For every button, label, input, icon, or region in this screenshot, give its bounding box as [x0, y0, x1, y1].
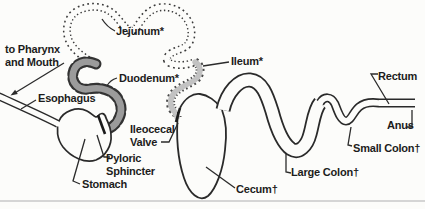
label-rectum: Rectum: [378, 70, 417, 83]
ileum-tube: [171, 62, 200, 117]
digestive-tract-diagram: to Pharynx and Mouth Esophagus Jejunum* …: [0, 0, 425, 209]
leader-small-colon: [348, 127, 352, 146]
label-pharynx-line2: and Mouth: [5, 56, 60, 69]
label-ileocecal-line1: Ileocecal: [130, 123, 175, 136]
label-ileocecal-line2: Valve: [130, 136, 175, 149]
label-ileocecal-valve: Ileocecal Valve: [130, 123, 175, 148]
leader-duodenum: [107, 78, 117, 86]
label-cecum: Cecum†: [236, 183, 278, 196]
label-ileum: Ileum*: [231, 55, 263, 68]
label-pharynx-mouth: to Pharynx and Mouth: [5, 43, 60, 68]
pharynx-arrowhead-icon: [11, 90, 18, 96]
label-pyloric-line2: Sphincter: [106, 165, 155, 178]
label-small-colon: Small Colon†: [353, 142, 420, 155]
cecum-outline: [177, 94, 226, 198]
label-pyloric-sphincter: Pyloric Sphincter: [106, 152, 155, 177]
small-colon-rectum-core: [320, 98, 415, 121]
label-esophagus: Esophagus: [38, 92, 96, 105]
label-pharynx-line1: to Pharynx: [5, 43, 60, 56]
leader-jejunum: [102, 19, 115, 31]
label-stomach: Stomach: [82, 178, 127, 191]
label-pyloric-line1: Pyloric: [106, 152, 155, 165]
label-large-colon: Large Colon†: [291, 166, 359, 179]
leader-ileum: [203, 62, 229, 66]
label-jejunum: Jejunum*: [116, 25, 164, 38]
label-anus: Anus: [387, 119, 414, 132]
label-duodenum: Duodenum*: [119, 72, 179, 85]
diagram-artwork: [0, 0, 425, 209]
